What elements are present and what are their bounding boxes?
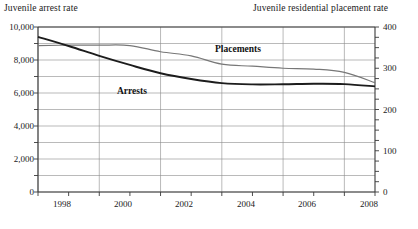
- series-label-placements: Placements: [215, 44, 261, 54]
- series-label-arrests: Arrests: [117, 86, 147, 96]
- chart-container: Juvenile arrest rate Juvenile residentia…: [0, 0, 418, 229]
- series-line-arrests: [38, 37, 375, 87]
- series-line-placements: [38, 45, 375, 83]
- plot-area: [0, 0, 418, 229]
